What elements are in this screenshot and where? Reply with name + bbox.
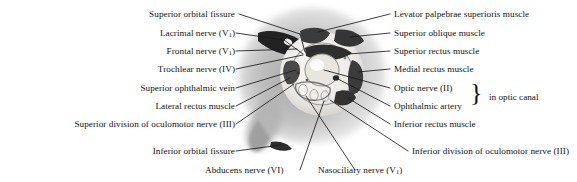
label-ophthalmic-artery: Ophthalmic artery [394,101,462,111]
label-superior-rectus-muscle: Superior rectus muscle [394,46,479,56]
label-lateral-rectus-muscle: Lateral rectus muscle [0,101,235,111]
label-inferior-orbital-fissure: Inferior orbital fissure [0,146,235,156]
optic-nerve-highlight [310,59,324,71]
label-in-optic-canal: in optic canal [489,92,539,102]
label-abducens-nerve: Abducens nerve (VI) [205,165,284,175]
label-superior-ophthalmic-vein: Superior ophthalmic vein [0,83,235,93]
label-optic-nerve: Optic nerve (II) [394,83,452,93]
label-nasociliary-nerve: Nasociliary nerve (V1) [318,165,402,177]
label-inferior-division-oculomotor-nerve: Inferior division of oculomotor nerve (I… [412,146,569,156]
label-inferior-rectus-muscle: Inferior rectus muscle [394,119,476,129]
label-superior-division-oculomotor-nerve: Superior division of oculomotor nerve (I… [0,119,235,129]
label-superior-oblique-muscle: Superior oblique muscle [394,28,485,38]
specimen-photograph [238,8,386,152]
label-superior-orbital-fissure: Superior orbital fissure [0,9,235,19]
ophthalmic-artery-structure [333,75,339,81]
label-medial-rectus-muscle: Medial rectus muscle [394,64,474,74]
tissue-speck-2 [306,79,309,82]
tissue-speck-1 [296,71,299,74]
optic-nerve-structure [305,54,339,86]
label-lacrimal-nerve: Lacrimal nerve (V1) [0,28,235,40]
optic-canal-brace-icon: } [470,80,482,106]
label-frontal-nerve: Frontal nerve (V1) [0,46,235,58]
inferior-division-oculomotor-structure [310,90,318,101]
label-levator-palpebrae-superioris-muscle: Levator palpebrae superioris muscle [394,9,529,19]
tissue-speck-3 [344,57,347,60]
nasociliary-nerve-structure [299,84,308,95]
label-trochlear-nerve: Trochlear nerve (IV) [0,64,235,74]
